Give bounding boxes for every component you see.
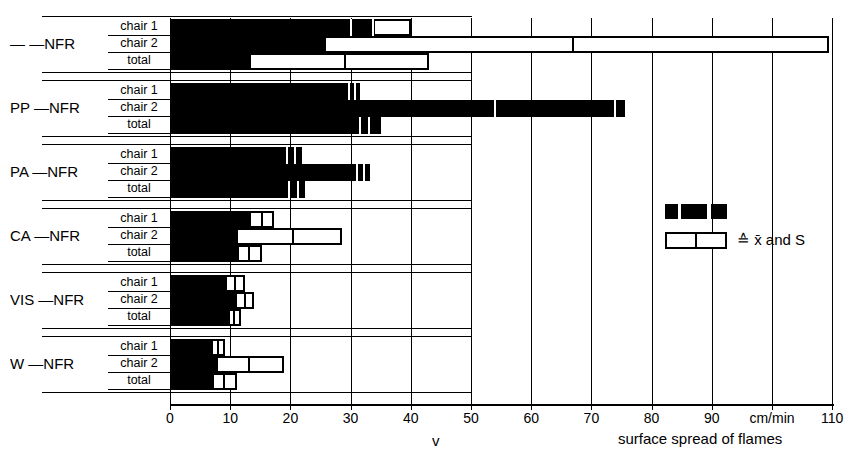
bar-division-mark [244, 292, 246, 309]
row-label-chair-2: chair 2 [108, 164, 170, 181]
bar-row [170, 373, 237, 390]
axis-variable-label: v [432, 432, 440, 449]
bar-mean-segment [170, 36, 324, 53]
group-rule-bottom [42, 328, 472, 329]
mean-swatch-gap [707, 204, 711, 219]
bar-row [170, 100, 625, 117]
row-label-chair-2: chair 2 [108, 228, 170, 245]
axis-unit-label: cm/min [749, 410, 794, 426]
row-label-chair-1: chair 1 [108, 19, 170, 36]
bar-group: PP —NFRchair 1chair 2total [0, 80, 865, 137]
tick-label-80: 80 [644, 410, 660, 426]
group-rule-top [42, 336, 472, 337]
group-rule-bottom [42, 264, 472, 265]
tick-label-10: 10 [222, 410, 238, 426]
group-label: — —NFR [10, 35, 75, 52]
row-label-total: total [108, 373, 170, 390]
bar-mean-segment [170, 373, 212, 390]
bar-mean-segment [170, 19, 373, 36]
bar-division-mark [348, 83, 350, 100]
bar-division-mark [292, 228, 294, 245]
tick-label-90: 90 [704, 410, 720, 426]
bar-sd-segment [249, 53, 428, 70]
bar-row [170, 245, 262, 262]
bar-mean-segment [170, 53, 249, 70]
bar-mean-segment [170, 309, 228, 326]
tick-label-50: 50 [463, 410, 479, 426]
bar-mean-segment [170, 245, 237, 262]
bar-mean-segment [170, 228, 236, 245]
bar-mean-segment [170, 117, 381, 134]
row-label-chair-2: chair 2 [108, 100, 170, 117]
bar-division-mark [572, 36, 574, 53]
group-rule-bottom [42, 200, 472, 201]
bar-group: W —NFRchair 1chair 2total [0, 336, 865, 393]
mean-swatch-inner-mark [678, 204, 681, 219]
row-label-chair-1: chair 1 [108, 339, 170, 356]
sd-swatch-divider [695, 232, 697, 249]
legend-label: ≙ x̄ and S [737, 231, 805, 249]
tick-label-20: 20 [283, 410, 299, 426]
bar-group: PA —NFRchair 1chair 2total [0, 144, 865, 201]
group-rule-top [42, 80, 472, 81]
row-label-chair-1: chair 1 [108, 211, 170, 228]
bar-division-mark [368, 117, 370, 134]
x-axis-line [170, 404, 834, 406]
bar-row [170, 356, 284, 373]
bar-division-mark [294, 147, 296, 164]
bar-row [170, 292, 254, 309]
group-label: PA —NFR [10, 163, 78, 180]
bar-row [170, 19, 411, 36]
bar-sd-segment [373, 19, 411, 36]
chart-figure: — —NFRchair 1chair 2totalPP —NFRchair 1c… [0, 0, 865, 462]
bar-row [170, 211, 274, 228]
bar-division-mark [354, 83, 356, 100]
row-label-chair-1: chair 1 [108, 83, 170, 100]
tick-label-30: 30 [343, 410, 359, 426]
row-label-total: total [108, 245, 170, 262]
group-label: VIS —NFR [10, 291, 84, 308]
row-label-chair-1: chair 1 [108, 147, 170, 164]
bar-row [170, 53, 429, 70]
tick-label-0: 0 [166, 410, 174, 426]
group-rule-top [42, 144, 472, 145]
bar-row [170, 309, 241, 326]
group-label: W —NFR [10, 355, 74, 372]
group-rule-top [42, 16, 472, 17]
bar-mean-segment [170, 147, 302, 164]
bar-division-mark [261, 211, 263, 228]
bar-division-mark [614, 100, 616, 117]
legend: ≙ x̄ and S [655, 200, 833, 262]
group-rule-top [42, 208, 472, 209]
bar-row [170, 36, 829, 53]
bar-mean-segment [170, 339, 211, 356]
tick-label-40: 40 [403, 410, 419, 426]
bar-division-mark [344, 53, 346, 70]
bar-row [170, 117, 381, 134]
bar-row [170, 275, 245, 292]
bar-division-mark [297, 181, 299, 198]
bar-sd-segment [236, 228, 341, 245]
bar-division-mark [372, 19, 374, 36]
bar-division-mark [356, 164, 358, 181]
bar-division-mark [288, 181, 290, 198]
bar-division-mark [248, 245, 250, 262]
bar-division-mark [286, 147, 288, 164]
bar-division-mark [350, 19, 352, 36]
bar-division-mark [363, 164, 365, 181]
row-label-total: total [108, 53, 170, 70]
row-label-chair-1: chair 1 [108, 275, 170, 292]
bar-mean-segment [170, 181, 305, 198]
bar-division-mark [223, 373, 225, 390]
bar-row [170, 339, 225, 356]
bar-division-mark [217, 339, 219, 356]
bar-mean-segment [170, 164, 370, 181]
bar-row [170, 147, 302, 164]
bar-division-mark [359, 117, 361, 134]
bar-mean-segment [170, 292, 235, 309]
tick-label-60: 60 [523, 410, 539, 426]
tick-label-70: 70 [584, 410, 600, 426]
mean-black-swatch [665, 204, 727, 219]
row-label-chair-2: chair 2 [108, 36, 170, 53]
group-rule-bottom [42, 72, 472, 73]
